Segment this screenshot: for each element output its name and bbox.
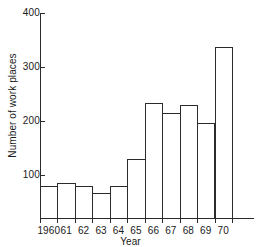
bar-1960 <box>40 186 58 218</box>
x-axis-line <box>40 218 254 219</box>
y-tick-mark-100 <box>40 175 45 176</box>
y-tick-group-400: 400 <box>0 13 40 14</box>
bar-68 <box>180 105 198 218</box>
bar-62 <box>75 186 93 218</box>
x-tick-mark-64 <box>110 218 111 223</box>
y-tick-mark-400 <box>40 13 45 14</box>
bar-67 <box>162 113 180 218</box>
bar-66 <box>145 103 163 218</box>
bar-61 <box>57 183 75 218</box>
x-tick-mark-62 <box>75 218 76 223</box>
bar-64 <box>110 186 128 218</box>
x-tick-label-70: 70 <box>208 225 238 236</box>
y-tick-label-400: 400 <box>6 8 40 18</box>
x-tick-mark-63 <box>92 218 93 223</box>
x-axis-title: Year <box>0 236 261 247</box>
x-tick-mark-67 <box>162 218 163 223</box>
x-tick-mark-65 <box>127 218 128 223</box>
x-tick-mark-1960 <box>40 218 41 223</box>
y-tick-mark-300 <box>40 67 45 68</box>
bar-70 <box>215 47 233 218</box>
x-tick-mark-66 <box>145 218 146 223</box>
x-tick-mark-68 <box>180 218 181 223</box>
y-tick-mark-200 <box>40 121 45 122</box>
y-axis-title: Number of work places <box>7 31 18 181</box>
bar-63 <box>92 193 110 218</box>
x-tick-mark-69 <box>197 218 198 223</box>
x-tick-mark-end <box>232 218 233 223</box>
bar-chart: 400 300 200 100 Number of work places 19… <box>0 0 261 247</box>
x-tick-mark-61 <box>57 218 58 223</box>
bar-65 <box>127 159 145 218</box>
bar-69 <box>197 123 215 218</box>
x-tick-mark-70 <box>215 218 216 223</box>
